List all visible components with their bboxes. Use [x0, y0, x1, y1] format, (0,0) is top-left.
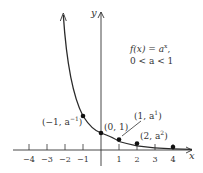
tick-label: 1 [116, 155, 121, 164]
tick-label: 2 [134, 155, 139, 164]
tick-label: 4 [170, 155, 175, 164]
label-point-0: (0, 1) [104, 122, 128, 132]
x-axis-label: x [189, 150, 195, 161]
point-2 [135, 141, 140, 146]
tick-label: 3 [152, 155, 157, 164]
exponential-graph: −4 −3 −2 −1 1 2 3 4 x y (−1, a−1) (0, 1)… [0, 0, 203, 173]
point-1 [117, 137, 122, 142]
tick-label: −1 [77, 155, 89, 164]
label-point-2: (2, a2) [140, 129, 168, 141]
condition-label: 0 < a < 1 [130, 56, 173, 66]
point-4 [171, 145, 176, 150]
tick-label: −2 [59, 155, 71, 164]
y-axis-label: y [90, 7, 97, 18]
point-0 [99, 131, 104, 136]
tick-label: −4 [23, 155, 35, 164]
label-point-neg1: (−1, a−1) [42, 115, 82, 127]
tick-label: −3 [41, 155, 53, 164]
equation-label: f(x) = ax, [129, 42, 170, 54]
label-point-1: (1, a1) [134, 109, 162, 121]
